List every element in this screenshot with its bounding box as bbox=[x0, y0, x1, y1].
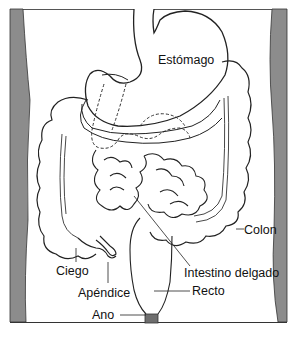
left-body-wall bbox=[10, 9, 30, 322]
small-intestine bbox=[92, 150, 207, 218]
label-rectum: Recto bbox=[192, 285, 225, 298]
label-small-intestine: Intestino delgado bbox=[184, 267, 279, 280]
label-cecum: Ciego bbox=[56, 265, 89, 278]
rectum bbox=[130, 218, 172, 314]
ascending-colon-inner bbox=[60, 134, 78, 238]
descending-colon-inner bbox=[194, 96, 229, 222]
label-appendix: Apéndice bbox=[78, 287, 130, 300]
stomach bbox=[85, 9, 227, 126]
digestive-system-diagram bbox=[0, 0, 296, 339]
label-anus: Ano bbox=[92, 309, 114, 322]
label-colon: Colon bbox=[244, 224, 277, 237]
label-stomach: Estómago bbox=[158, 54, 214, 67]
leader-intestine bbox=[134, 196, 190, 266]
anus bbox=[145, 314, 158, 323]
